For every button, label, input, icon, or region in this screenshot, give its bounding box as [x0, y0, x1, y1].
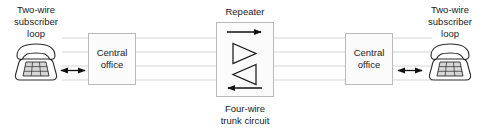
right-loop-label-line3: loop: [441, 28, 459, 39]
left-phone-icon: [15, 44, 56, 80]
trunk-caption-line2: trunk circuit: [221, 115, 270, 126]
phone-keypad-icon: [437, 62, 463, 76]
right-central-office-label-line1: Central: [354, 47, 385, 58]
left-loop-label-line2: subscriber: [14, 16, 58, 27]
repeater-label: Repeater: [225, 6, 264, 17]
left-central-office-label-line2: office: [101, 59, 124, 70]
left-loop-label-line3: loop: [27, 28, 45, 39]
right-central-office-label-line2: office: [358, 59, 381, 70]
right-phone-icon: [429, 44, 470, 80]
trunk-caption-line1: Four-wire: [225, 103, 265, 114]
repeater-box: [217, 23, 274, 97]
phone-handset-icon: [431, 44, 469, 59]
phone-keypad-icon: [23, 62, 49, 76]
left-central-office-label-line1: Central: [97, 47, 128, 58]
right-loop-label-line2: subscriber: [428, 16, 472, 27]
left-loop-label-line1: Two-wire: [17, 4, 55, 15]
four-wire-trunk-diagram: Central office Central office Two-wire s…: [0, 0, 487, 134]
diagram-canvas: Central office Central office Two-wire s…: [0, 0, 487, 134]
right-loop-label-line1: Two-wire: [431, 4, 469, 15]
phone-handset-icon: [17, 44, 55, 59]
